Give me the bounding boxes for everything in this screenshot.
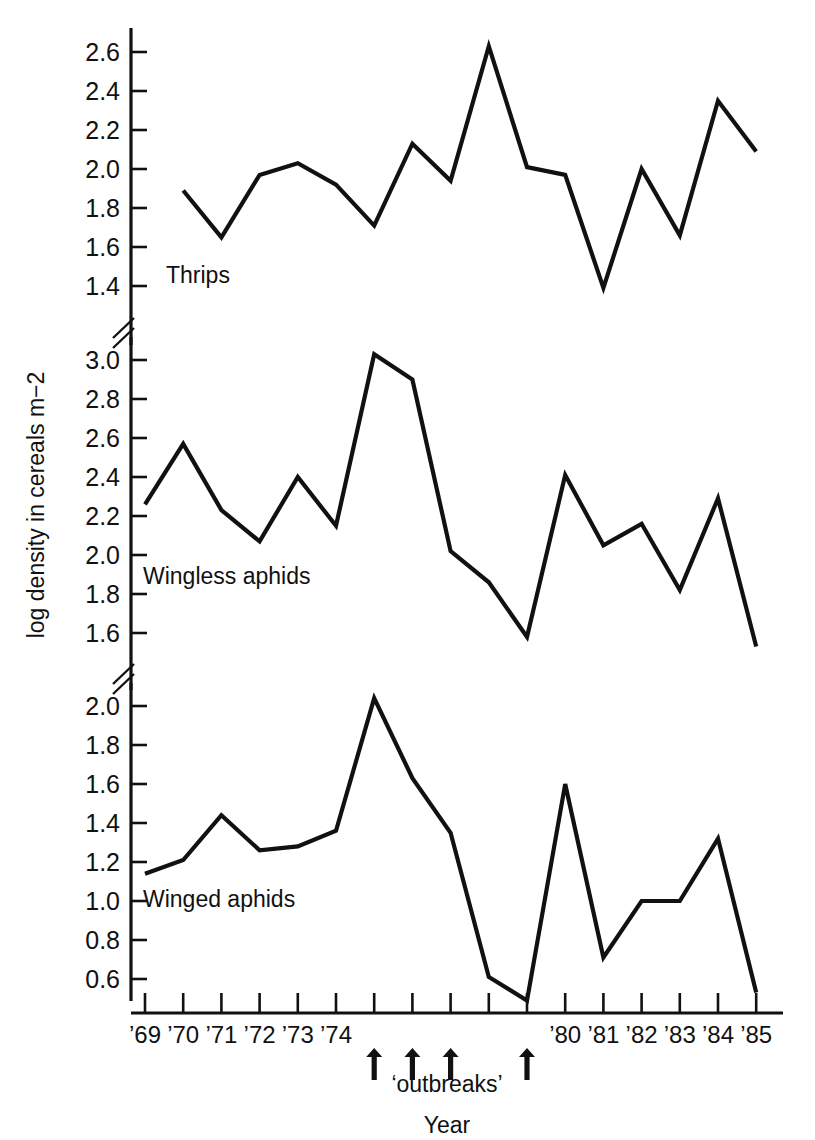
x-tick-label-1974: ’74 [320,1021,352,1048]
thrips-ytick-2.4: 2.4 [85,77,120,105]
winged-y-ticks [131,706,147,979]
wingless-ytick-2.8: 2.8 [85,385,120,413]
winged-aphids-series-label: Winged aphids [143,886,295,912]
thrips-data-line [183,46,756,288]
winged-ytick-1.2: 1.2 [85,848,120,876]
figure-root: 2.6 2.4 2.2 2.0 1.8 1.6 1.4 Thrips [0,0,815,1140]
winged-ytick-2.0: 2.0 [85,692,120,720]
panel-winged-aphids: 2.0 1.8 1.6 1.4 1.2 1.0 0.8 0.6 Winged a… [85,683,756,1001]
x-tick-label-1984: ’84 [702,1021,734,1048]
y-axis-title: log density in cereals m−2 [23,372,49,639]
outbreak-arrow-1975 [366,1048,382,1080]
thrips-ytick-2.0: 2.0 [85,155,120,183]
wingless-ytick-1.8: 1.8 [85,580,120,608]
x-tick-label-1980: ’80 [549,1021,581,1048]
wingless-ytick-1.6: 1.6 [85,619,120,647]
thrips-ytick-2.2: 2.2 [85,116,120,144]
outbreaks-annotation-label: ‘outbreaks’ [391,1071,502,1097]
thrips-ytick-1.8: 1.8 [85,194,120,222]
x-tick-label-1973: ’73 [282,1021,314,1048]
line-chart-three-panel: 2.6 2.4 2.2 2.0 1.8 1.6 1.4 Thrips [0,0,815,1140]
panel-thrips: 2.6 2.4 2.2 2.0 1.8 1.6 1.4 Thrips [85,28,756,345]
x-tick-label-1982: ’82 [626,1021,658,1048]
wingless-ytick-2.6: 2.6 [85,424,120,452]
winged-ytick-1.6: 1.6 [85,770,120,798]
x-tick-label-1985: ’85 [740,1021,772,1048]
x-tick-label-1981: ’81 [587,1021,619,1048]
x-axis-title: Year [424,1112,471,1138]
outbreak-arrow-1979 [519,1048,535,1080]
wingless-ytick-3.0: 3.0 [85,346,120,374]
thrips-ytick-2.6: 2.6 [85,38,120,66]
winged-ytick-0.8: 0.8 [85,926,120,954]
x-tick-label-1972: ’72 [244,1021,276,1048]
panel-wingless-aphids: 3.0 2.8 2.6 2.4 2.2 2.0 1.8 1.6 Wingless… [85,337,756,690]
wingless-ytick-2.4: 2.4 [85,463,120,491]
x-axis-tick-labels: ’69’70’71’72’73’74’80’81’82’83’84’85 [129,1021,772,1048]
thrips-ytick-1.6: 1.6 [85,233,120,261]
thrips-y-ticks [131,52,147,286]
x-tick-label-1969: ’69 [129,1021,161,1048]
x-axis-ticks [145,993,756,1013]
winged-ytick-0.6: 0.6 [85,965,120,993]
x-tick-label-1971: ’71 [205,1021,237,1048]
thrips-series-label: Thrips [166,262,230,288]
thrips-ytick-1.4: 1.4 [85,272,120,300]
wingless-aphids-series-label: Wingless aphids [143,563,310,589]
winged-aphids-data-line [145,698,756,1000]
wingless-y-ticks [131,360,147,633]
winged-ytick-1.4: 1.4 [85,809,120,837]
wingless-ytick-2.2: 2.2 [85,502,120,530]
wingless-ytick-2.0: 2.0 [85,541,120,569]
x-tick-label-1983: ’83 [664,1021,696,1048]
wingless-aphids-data-line [145,354,756,646]
winged-ytick-1.0: 1.0 [85,887,120,915]
x-axis: ’69’70’71’72’73’74’80’81’82’83’84’85 [129,993,783,1048]
winged-ytick-1.8: 1.8 [85,731,120,759]
x-tick-label-1970: ’70 [167,1021,199,1048]
